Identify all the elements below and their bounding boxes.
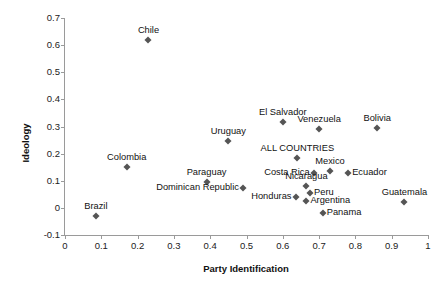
x-axis-tick: [210, 235, 211, 239]
x-axis-tick: [138, 235, 139, 239]
x-axis-tick-label: 0.5: [240, 241, 253, 251]
data-point-marker: [145, 36, 152, 43]
x-axis-tick-label: 0.1: [95, 241, 108, 251]
y-axis-tick-label: 0.6: [47, 40, 60, 50]
x-axis-tick: [174, 235, 175, 239]
data-point-marker: [225, 138, 232, 145]
x-axis-tick-label: 0.3: [167, 241, 180, 251]
x-axis-tick-label: 1: [425, 241, 430, 251]
y-axis-tick: [61, 18, 65, 19]
y-axis-label: Ideology: [20, 123, 31, 162]
y-axis-tick-label: 0.7: [47, 13, 60, 23]
x-axis-tick-label: 0.9: [385, 241, 398, 251]
data-point-label: Nicaragua: [285, 172, 327, 181]
y-axis-tick-label: 0.3: [47, 122, 60, 132]
data-point-label: Argentina: [310, 196, 350, 205]
scatter-chart: Ideology Party Identification 0.70.60.50…: [0, 0, 446, 286]
data-point-label: Uruguay: [211, 127, 246, 136]
x-axis-tick: [319, 235, 320, 239]
x-axis-tick: [428, 235, 429, 239]
data-point-marker: [303, 198, 310, 205]
x-axis-tick: [283, 235, 284, 239]
data-point-label: Colombia: [107, 153, 146, 162]
y-axis-tick-label: 0.4: [47, 95, 60, 105]
x-axis-tick: [247, 235, 248, 239]
data-point-marker: [319, 210, 326, 217]
x-axis-tick: [65, 235, 66, 239]
y-axis-tick-label: 0: [55, 203, 60, 213]
data-point-label: Paraguay: [187, 168, 227, 177]
data-point-label: Bolivia: [363, 114, 390, 123]
y-axis-tick-label: -0.1: [44, 230, 60, 240]
data-point-marker: [316, 126, 323, 133]
x-axis-tick-label: 0.4: [204, 241, 217, 251]
data-point-label: Dominican Republic: [156, 183, 239, 192]
y-axis-tick: [61, 208, 65, 209]
y-axis-tick: [61, 127, 65, 128]
data-point-label: Ecuador: [352, 168, 387, 177]
y-axis-tick: [61, 154, 65, 155]
data-point-marker: [401, 199, 408, 206]
data-point-label: Chile: [138, 25, 159, 34]
data-point-label: Brazil: [84, 202, 107, 211]
data-point-marker: [292, 193, 299, 200]
data-point-label: ALL COUNTRIES: [261, 143, 335, 152]
data-point-marker: [123, 164, 130, 171]
data-point-label: Mexico: [315, 157, 344, 166]
data-point-label: Panama: [327, 209, 362, 218]
data-point-marker: [294, 154, 301, 161]
y-axis-tick-label: 0.2: [47, 149, 60, 159]
y-axis-tick: [61, 45, 65, 46]
data-point-marker: [239, 184, 246, 191]
x-axis-tick: [355, 235, 356, 239]
x-axis-label: Party Identification: [64, 263, 428, 274]
x-axis-tick-label: 0.2: [131, 241, 144, 251]
data-point-marker: [279, 119, 286, 126]
y-axis-tick: [61, 72, 65, 73]
x-axis-tick-label: 0.6: [276, 241, 289, 251]
x-axis-tick-label: 0: [62, 241, 67, 251]
y-axis-tick-label: 0.5: [47, 68, 60, 78]
data-point-label: Honduras: [251, 192, 291, 201]
data-point-marker: [345, 169, 352, 176]
x-axis-tick-label: 0.8: [349, 241, 362, 251]
data-point-marker: [374, 124, 381, 131]
data-point-marker: [92, 212, 99, 219]
y-axis-tick: [61, 99, 65, 100]
data-point-label: Guatemala: [382, 188, 427, 197]
x-axis-tick: [392, 235, 393, 239]
x-axis-tick-label: 0.7: [312, 241, 325, 251]
data-point-label: Venezuela: [297, 115, 340, 124]
plot-area: 0.70.60.50.40.30.20.10-0.100.10.20.30.40…: [64, 18, 428, 236]
y-axis-tick: [61, 181, 65, 182]
y-axis-tick-label: 0.1: [47, 176, 60, 186]
x-axis-tick: [101, 235, 102, 239]
